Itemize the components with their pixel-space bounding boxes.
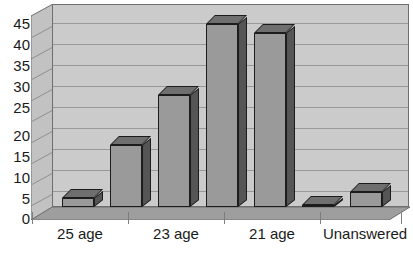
bar-side	[142, 138, 151, 207]
bar-21-age	[254, 33, 286, 207]
y-tick-label: 30	[2, 79, 30, 94]
x-tick-mark	[320, 212, 321, 224]
bar-unlabeled-6	[302, 205, 334, 207]
bar-22-age	[206, 24, 238, 207]
bar-chart: 45 40 35 30 25 20 15 10 5 0	[0, 0, 413, 256]
x-tick-label-21-age: 21 age	[224, 226, 320, 241]
bar-side	[190, 88, 199, 207]
bar-front	[206, 24, 238, 207]
x-tick-label-23-age: 23 age	[128, 226, 224, 241]
y-tick-label: 35	[2, 58, 30, 73]
bar-24-age	[110, 145, 142, 207]
x-tick-label-unanswered: Unanswered	[320, 226, 410, 241]
y-tick-label: 15	[2, 149, 30, 164]
bar-front	[254, 33, 286, 207]
y-tick-label: 25	[2, 100, 30, 115]
bar-23-age	[158, 95, 190, 207]
bar-front	[110, 145, 142, 207]
plot-area	[31, 4, 410, 220]
bar-25-age	[62, 198, 94, 207]
y-tick-label: 40	[2, 37, 30, 52]
y-tick-label: 10	[2, 170, 30, 185]
bar-front	[158, 95, 190, 207]
x-axis: 25 age 23 age 21 age Unanswered	[31, 212, 410, 256]
bar-unanswered	[350, 192, 382, 207]
x-tick-label-25-age: 25 age	[32, 226, 128, 241]
y-tick-label: 5	[2, 191, 30, 206]
bar-front	[62, 198, 94, 207]
x-tick-mark	[224, 212, 225, 224]
y-tick-label: 0	[2, 211, 30, 226]
bar-side	[286, 26, 295, 207]
x-tick-mark	[128, 212, 129, 224]
bar-series	[31, 4, 410, 220]
bar-side	[238, 17, 247, 207]
x-tick-mark	[32, 212, 33, 224]
bar-front	[302, 205, 334, 207]
x-tick-mark	[401, 212, 402, 224]
y-tick-label: 20	[2, 128, 30, 143]
y-tick-label: 45	[2, 16, 30, 31]
bar-front	[350, 192, 382, 207]
y-axis: 45 40 35 30 25 20 15 10 5 0	[0, 0, 30, 256]
